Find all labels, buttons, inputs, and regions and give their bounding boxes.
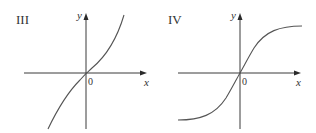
x-axis-label: x [295,76,301,88]
y-axis-label: y [76,9,82,21]
y-axis-label: y [230,9,236,21]
panel-iii: III x y 0 [16,9,149,129]
figure-canvas: III x y 0 IV x y 0 [0,0,316,133]
panel-label-iv: IV [168,12,182,27]
panel-label-iii: III [16,12,29,27]
y-axis-arrow-icon [84,13,89,20]
panel-iv: IV x y 0 [168,9,302,129]
x-axis-label: x [143,76,149,88]
y-axis-arrow-icon [238,13,243,20]
x-axis-arrow-icon [140,71,147,76]
origin-label: 0 [88,76,93,87]
origin-label: 0 [242,76,247,87]
x-axis-arrow-icon [294,71,301,76]
